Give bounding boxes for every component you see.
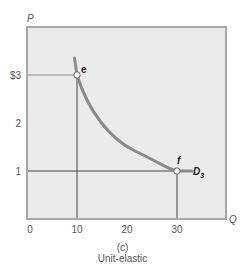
y-tick-1: 1 xyxy=(15,166,21,177)
point-f-marker xyxy=(174,168,180,174)
x-axis-title: Q xyxy=(229,214,237,225)
x-tick-20: 20 xyxy=(121,224,133,235)
point-e-label: e xyxy=(81,64,87,75)
plot-area xyxy=(27,27,226,219)
chart-subtitle: Unit-elastic xyxy=(0,253,245,264)
y-axis-title: P xyxy=(27,13,34,24)
panel-label: (c) xyxy=(0,242,245,253)
curve-label-main: D xyxy=(193,166,200,177)
demand-chart: e f D3 P Q $3 2 1 0 10 20 30 xyxy=(0,0,245,265)
curve-label-sub: 3 xyxy=(200,172,204,179)
point-e-marker xyxy=(74,72,80,78)
x-tick-0: 0 xyxy=(27,224,33,235)
x-tick-30: 30 xyxy=(171,224,183,235)
y-tick-2: 2 xyxy=(15,118,21,129)
x-tick-10: 10 xyxy=(71,224,83,235)
y-tick-3: $3 xyxy=(10,70,22,81)
